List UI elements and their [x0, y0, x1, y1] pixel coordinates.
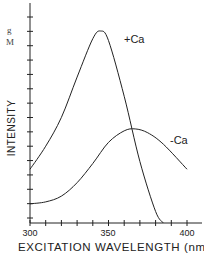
y-axis-title: INTENSITY — [6, 100, 17, 157]
series-lines — [30, 31, 187, 223]
fragment-label-2: M — [6, 37, 14, 47]
series-line-plus-ca — [30, 31, 163, 223]
fragment-label-1: g — [7, 25, 12, 35]
series-label-minus-ca: -Ca — [170, 134, 189, 146]
series-label-plus-ca: +Ca — [124, 33, 145, 45]
x-axis-title: EXCITATION WAVELENGTH (nm) — [18, 241, 204, 253]
chart: g M INTENSITY 300 350 400 EXCITATION WAV… — [0, 0, 204, 257]
x-axis — [30, 220, 202, 226]
x-tick-label-400: 400 — [179, 228, 194, 238]
x-tick-label-350: 350 — [100, 228, 115, 238]
y-axis — [27, 3, 33, 223]
x-tick-label-300: 300 — [22, 228, 37, 238]
series-line-minus-ca — [30, 129, 187, 204]
